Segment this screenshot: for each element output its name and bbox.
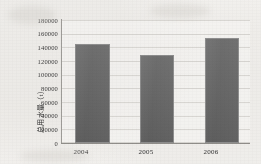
bar-2005 bbox=[140, 55, 174, 143]
y-axis-line bbox=[61, 19, 62, 144]
x-tick-label-2005: 2005 bbox=[125, 148, 167, 156]
x-axis-line bbox=[61, 143, 250, 144]
plot-area bbox=[62, 20, 250, 143]
scan-smudge bbox=[150, 4, 210, 18]
y-axis-title: 总用水量（t） bbox=[37, 73, 45, 147]
y-tick-label: 180000 bbox=[2, 17, 58, 24]
gridline bbox=[62, 34, 250, 35]
y-tick-label: 20000 bbox=[2, 126, 58, 133]
x-tick-label-2004: 2004 bbox=[60, 148, 102, 156]
y-axis-title-holder: 总用水量（t） bbox=[24, 46, 38, 120]
bar-2006 bbox=[205, 38, 239, 143]
gridline bbox=[62, 20, 250, 21]
x-tick-label-2006: 2006 bbox=[190, 148, 232, 156]
bar-2004 bbox=[75, 44, 110, 143]
bar-chart: 180000 160000 140000 120000 100000 80000… bbox=[0, 0, 261, 164]
y-tick-label: 160000 bbox=[2, 30, 58, 37]
y-tick-label: 0 bbox=[2, 140, 58, 147]
